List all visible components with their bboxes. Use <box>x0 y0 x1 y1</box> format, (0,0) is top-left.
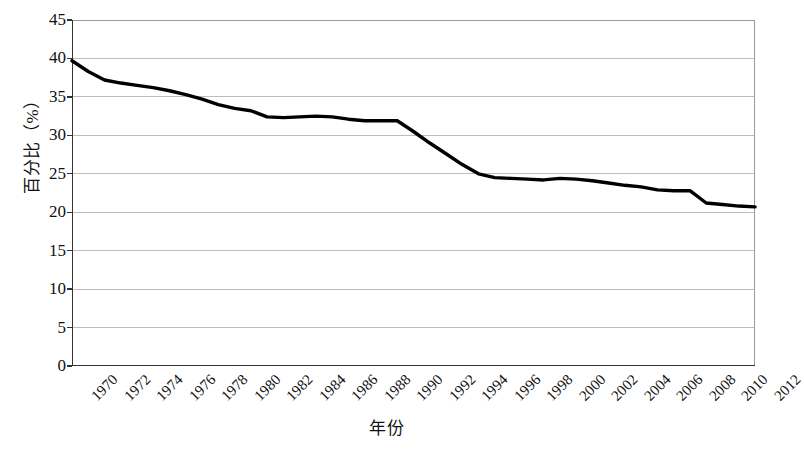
x-axis-tick-label: 1978 <box>219 372 251 404</box>
x-axis-tick-label: 1998 <box>544 372 576 404</box>
x-axis-tick-label: 2002 <box>609 372 641 404</box>
x-axis-tick-label: 1972 <box>121 372 153 404</box>
x-axis-tick-label: 1980 <box>251 372 283 404</box>
x-axis-tick-label: 1990 <box>414 372 446 404</box>
x-axis-tick-label: 2010 <box>739 372 771 404</box>
x-axis-tick-label: 2004 <box>642 372 674 404</box>
x-axis-tick-label: 2000 <box>577 372 609 404</box>
x-axis-tick-label: 2008 <box>707 372 739 404</box>
x-axis-tick-label: 1982 <box>284 372 316 404</box>
x-axis-tick-label: 1976 <box>186 372 218 404</box>
x-axis-tick-label: 1986 <box>349 372 381 404</box>
x-axis-tick-label: 2012 <box>772 372 804 404</box>
x-axis-tick-label: 1970 <box>89 372 121 404</box>
x-axis-tick-label: 1996 <box>512 372 544 404</box>
x-axis-title: 年份 <box>0 414 774 439</box>
x-axis-tick-label: 2006 <box>674 372 706 404</box>
x-axis-tick-label: 1988 <box>381 372 413 404</box>
x-axis-tick-label: 1984 <box>316 372 348 404</box>
x-axis-tick-label: 1992 <box>447 372 479 404</box>
x-axis-tick-label: 1974 <box>154 372 186 404</box>
x-axis-tick-label: 1994 <box>479 372 511 404</box>
